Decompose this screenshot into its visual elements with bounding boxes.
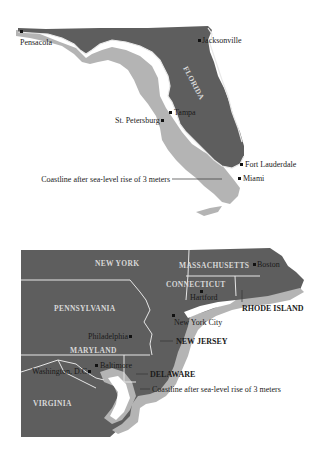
city-marker-miami bbox=[238, 177, 241, 180]
city-label-new-york-city: New York City bbox=[174, 318, 222, 327]
city-label-jacksonville: Jacksonville bbox=[202, 36, 242, 45]
city-label-st-petersburg: St. Petersburg bbox=[115, 116, 160, 125]
city-label-pensacola: Pensacola bbox=[20, 38, 52, 47]
northeast-map: NEW YORK MASSACHUSETTS CONNECTICUT PENNS… bbox=[21, 248, 304, 437]
state-label-virginia: VIRGINIA bbox=[33, 399, 72, 408]
city-label-miami: Miami bbox=[243, 174, 265, 183]
city-label-tampa: Tampa bbox=[174, 108, 196, 117]
city-label-philadelphia: Philadelphia bbox=[88, 332, 128, 341]
state-label-maryland: MARYLAND bbox=[70, 346, 117, 355]
northeast-legend-annotation: Coastline after sea-level rise of 3 mete… bbox=[152, 385, 281, 394]
city-label-fort-lauderdale: Fort Lauderdale bbox=[245, 160, 297, 169]
state-label-delaware: DELAWARE bbox=[150, 370, 195, 379]
state-label-massachusetts: MASSACHUSETTS bbox=[179, 261, 249, 270]
sea-level-rise-maps: FLORIDA Pensacola Jacksonville Tampa St.… bbox=[0, 0, 319, 460]
city-marker-new-york-city bbox=[172, 314, 175, 317]
city-marker-tampa bbox=[169, 111, 172, 114]
state-label-rhode-island: RHODE ISLAND bbox=[242, 304, 304, 313]
city-label-baltimore: Baltimore bbox=[100, 361, 132, 370]
city-marker-jacksonville bbox=[198, 39, 201, 42]
city-marker-pensacola bbox=[20, 30, 23, 33]
state-label-new-york: NEW YORK bbox=[95, 259, 139, 268]
florida-legend-annotation: Coastline after sea-level rise of 3 mete… bbox=[41, 175, 170, 184]
city-marker-st-petersburg bbox=[161, 119, 164, 122]
city-label-hartford: Hartford bbox=[190, 293, 218, 302]
state-label-connecticut: CONNECTICUT bbox=[166, 280, 226, 289]
city-marker-fort-lauderdale bbox=[240, 163, 243, 166]
northeast-current-land bbox=[21, 248, 304, 437]
florida-keys-flooded bbox=[196, 206, 222, 216]
city-label-boston: Boston bbox=[257, 260, 280, 269]
florida-current-land bbox=[18, 26, 244, 168]
florida-map: FLORIDA Pensacola Jacksonville Tampa St.… bbox=[16, 26, 297, 216]
city-marker-philadelphia bbox=[129, 335, 132, 338]
city-marker-baltimore bbox=[95, 364, 98, 367]
city-marker-boston bbox=[253, 263, 256, 266]
state-label-pennsylvania: PENNSYLVANIA bbox=[54, 304, 116, 313]
state-label-new-jersey: NEW JERSEY bbox=[176, 337, 228, 346]
city-label-washington-dc: Washington, D.C. bbox=[32, 367, 89, 376]
